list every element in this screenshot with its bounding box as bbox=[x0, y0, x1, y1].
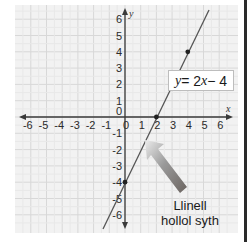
x-tick-label: -2 bbox=[86, 119, 96, 131]
x-tick-label: 5 bbox=[201, 119, 207, 131]
equation-rest: − 4 bbox=[207, 73, 227, 89]
x-tick-label: -3 bbox=[70, 119, 80, 131]
y-tick-label: 5 bbox=[116, 30, 122, 42]
y-tick-label: -2 bbox=[112, 144, 122, 156]
callout-line-1: Llinell bbox=[150, 198, 230, 213]
x-tick-label: -6 bbox=[23, 119, 33, 131]
y-tick-label: 6 bbox=[116, 13, 122, 25]
callout-line-2: hollol syth bbox=[150, 213, 230, 228]
callout-text: Llinell hollol syth bbox=[150, 198, 230, 228]
y-tick-label: 4 bbox=[116, 46, 122, 58]
y-tick-label: 0 bbox=[116, 105, 122, 117]
x-axis-name: x bbox=[225, 103, 231, 114]
data-point bbox=[154, 115, 159, 120]
data-point bbox=[123, 180, 128, 185]
x-tick-label: 0 bbox=[123, 119, 129, 131]
y-axis-name: y bbox=[128, 8, 134, 19]
x-tick-label: -4 bbox=[54, 119, 64, 131]
y-tick-label: -1 bbox=[112, 127, 122, 139]
y-tick-label: 2 bbox=[116, 78, 122, 90]
equation-eq: = 2 bbox=[181, 73, 201, 89]
y-tick-label: -6 bbox=[112, 209, 122, 221]
x-tick-label: 1 bbox=[139, 119, 145, 131]
data-point bbox=[185, 49, 190, 54]
x-tick-label: 4 bbox=[186, 119, 192, 131]
y-tick-label: -4 bbox=[112, 176, 122, 188]
x-tick-label: -5 bbox=[39, 119, 49, 131]
equation-label: y = 2 x − 4 bbox=[168, 70, 234, 91]
x-tick-label: -1 bbox=[101, 119, 111, 131]
x-tick-label: 3 bbox=[170, 119, 176, 131]
y-tick-label: -3 bbox=[112, 160, 122, 172]
x-tick-label: 6 bbox=[217, 119, 223, 131]
y-tick-label: 3 bbox=[116, 62, 122, 74]
